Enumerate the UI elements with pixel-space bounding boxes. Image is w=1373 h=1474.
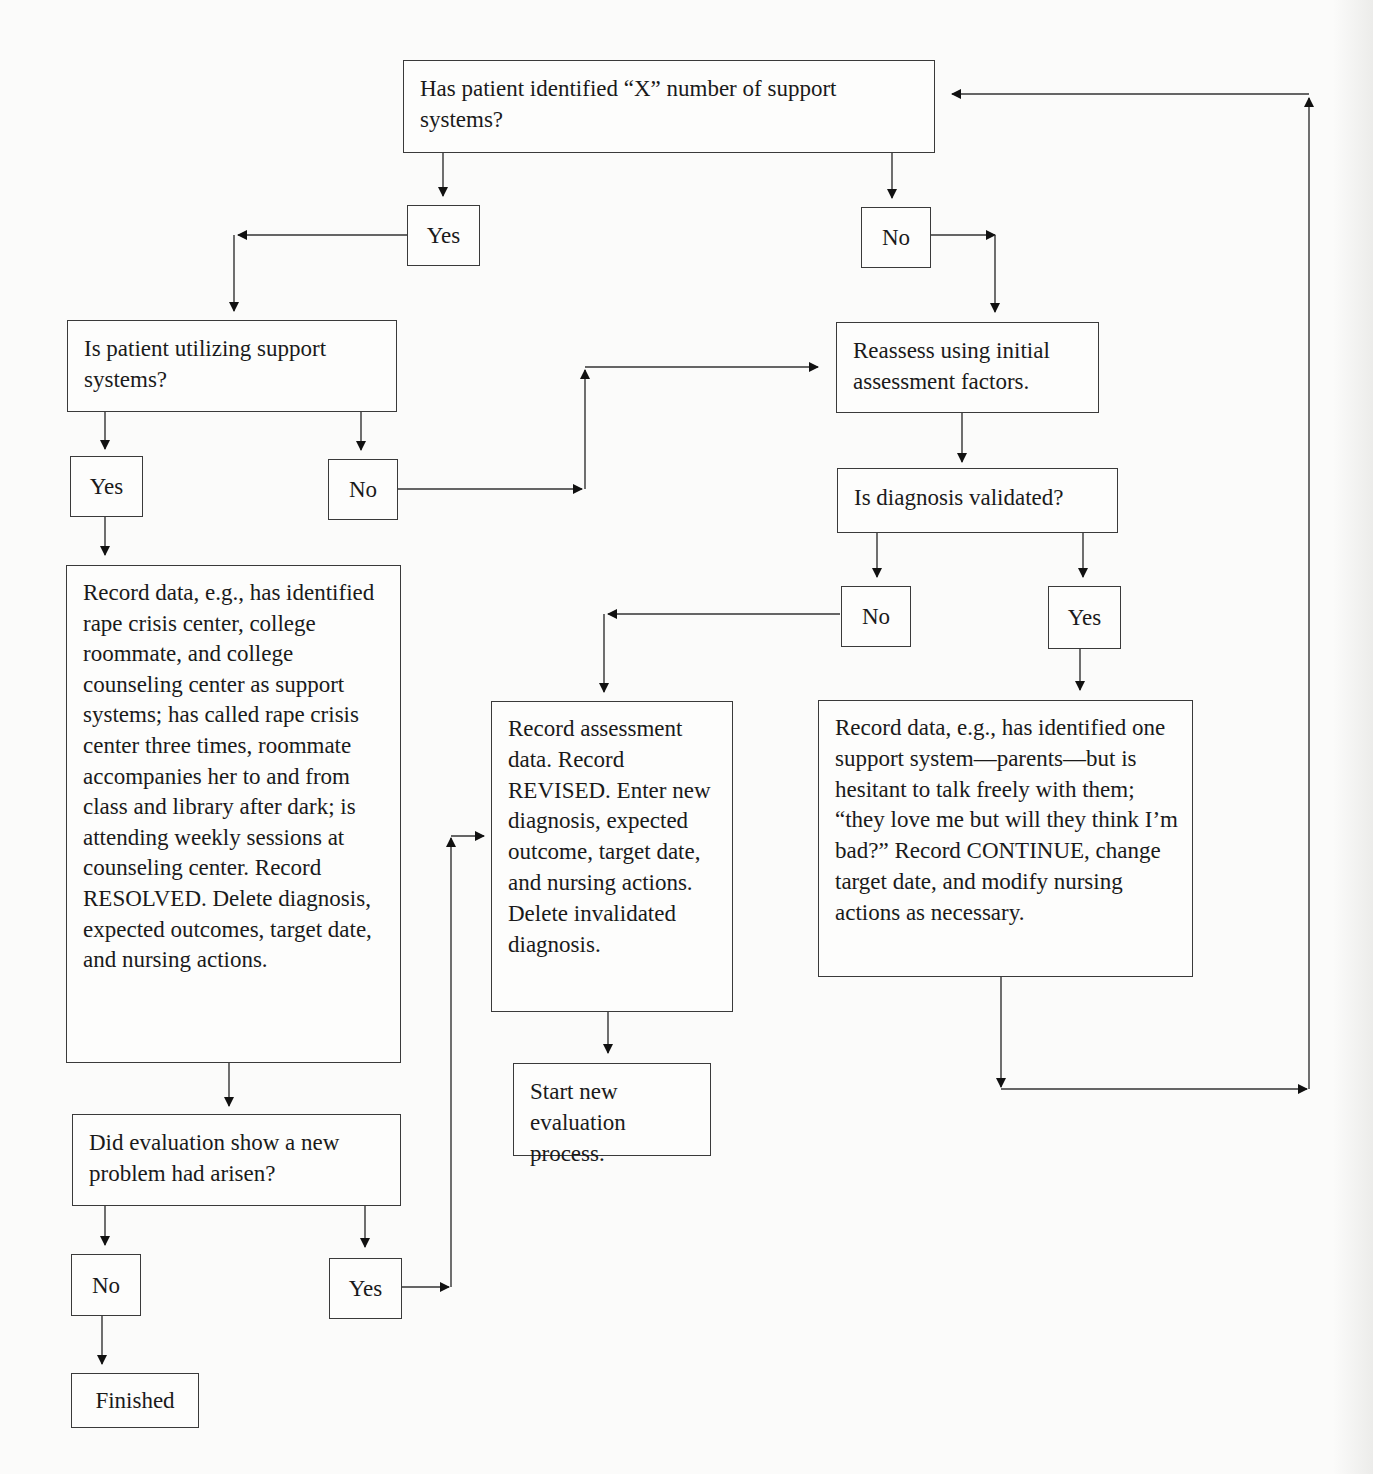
node-text: Yes [349, 1273, 382, 1304]
node-text: No [92, 1270, 120, 1301]
answer-no-utilizing: No [328, 459, 398, 520]
action-record-continue: Record data, e.g., has identified one su… [818, 700, 1193, 977]
node-text: Record assessment data. Record REVISED. … [508, 714, 718, 960]
node-text: Is diagnosis validated? [854, 482, 1101, 513]
node-text: Has patient identified “X” number of sup… [420, 73, 918, 135]
node-text: Did evaluation show a new problem had ar… [89, 1127, 384, 1189]
node-text: Reassess using initial assessment factor… [853, 335, 1082, 397]
answer-yes-new-problem: Yes [329, 1258, 402, 1319]
answer-no-identified: No [861, 207, 931, 268]
node-text: Yes [90, 471, 123, 502]
answer-yes-identified: Yes [407, 205, 480, 266]
answer-yes-validated: Yes [1048, 586, 1121, 649]
action-record-resolved: Record data, e.g., has identified rape c… [66, 565, 401, 1063]
answer-yes-utilizing: Yes [70, 456, 143, 517]
answer-no-validated: No [841, 586, 911, 647]
decision-utilizing-support: Is patient utilizing support systems? [67, 320, 397, 412]
decision-support-identified: Has patient identified “X” number of sup… [403, 60, 935, 153]
node-text: Record data, e.g., has identified one su… [835, 713, 1178, 929]
node-text: Start new evaluation process. [530, 1076, 694, 1169]
node-text: Yes [1068, 602, 1101, 633]
node-text: Finished [95, 1385, 174, 1416]
terminal-finished: Finished [71, 1373, 199, 1428]
node-text: No [862, 601, 890, 632]
node-text: No [349, 474, 377, 505]
action-reassess: Reassess using initial assessment factor… [836, 322, 1099, 413]
node-text: No [882, 222, 910, 253]
node-text: Yes [427, 220, 460, 251]
action-record-revised: Record assessment data. Record REVISED. … [491, 701, 733, 1012]
terminal-start-new-evaluation: Start new evaluation process. [513, 1063, 711, 1156]
node-text: Is patient utilizing support systems? [84, 333, 380, 395]
answer-no-new-problem: No [71, 1254, 141, 1316]
decision-diagnosis-validated: Is diagnosis validated? [837, 468, 1118, 533]
node-text: Record data, e.g., has identified rape c… [83, 578, 386, 976]
decision-new-problem: Did evaluation show a new problem had ar… [72, 1114, 401, 1206]
